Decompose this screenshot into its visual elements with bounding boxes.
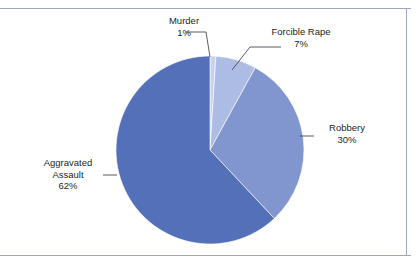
pie-label-forcible-rape-name: Forcible Rape: [255, 26, 347, 38]
pie-label-aggravated-assault-name-line2: Assault: [30, 169, 106, 181]
pie-label-murder: Murder 1%: [152, 15, 216, 38]
pie-chart-figure: Murder 1% Forcible Rape 7% Robbery 30% A…: [0, 0, 417, 267]
pie-label-aggravated-assault-value: 62%: [30, 180, 106, 192]
pie-label-robbery-name: Robbery: [316, 122, 378, 134]
pie-label-robbery: Robbery 30%: [316, 122, 378, 145]
pie-label-murder-name: Murder: [152, 15, 216, 27]
pie-label-robbery-value: 30%: [316, 134, 378, 146]
pie-label-forcible-rape-value: 7%: [255, 38, 347, 50]
pie-label-aggravated-assault: Aggravated Assault 62%: [30, 157, 106, 192]
pie-label-forcible-rape: Forcible Rape 7%: [255, 26, 347, 49]
pie-label-aggravated-assault-name-line1: Aggravated: [30, 157, 106, 169]
pie-label-murder-value: 1%: [152, 27, 216, 39]
pie-slices: [116, 56, 304, 244]
